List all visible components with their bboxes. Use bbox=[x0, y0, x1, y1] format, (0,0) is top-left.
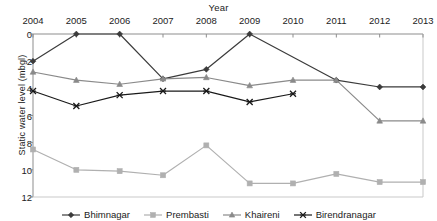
data-point-x-marker bbox=[290, 91, 296, 97]
data-point-x-marker bbox=[300, 212, 306, 218]
legend-label: Birendranagar bbox=[316, 209, 376, 220]
chart-legend: BhimnagarPrembastiKhaireniBirendranagar bbox=[0, 209, 437, 220]
legend-marker-square-icon bbox=[143, 210, 163, 220]
static-water-level-chart: Year Static water level (mbgl) 200420052… bbox=[0, 0, 437, 221]
legend-label: Khaireni bbox=[245, 209, 280, 220]
data-point-x-marker bbox=[73, 103, 79, 109]
series-prembasti bbox=[31, 143, 426, 186]
legend-label: Bhimnagar bbox=[84, 209, 130, 220]
data-point-diamond-marker bbox=[30, 58, 36, 64]
data-point-square-marker bbox=[421, 180, 426, 185]
plot-area bbox=[0, 0, 437, 221]
series-line-prembasti bbox=[33, 145, 423, 183]
series-line-birendranagar bbox=[33, 91, 293, 106]
data-point-diamond-marker bbox=[420, 84, 426, 90]
data-point-square-marker bbox=[377, 180, 382, 185]
data-point-square-marker bbox=[334, 171, 339, 176]
data-point-x-marker bbox=[203, 88, 209, 94]
series-line-bhimnagar bbox=[33, 34, 423, 87]
data-point-x-marker bbox=[247, 99, 253, 105]
data-point-diamond-marker bbox=[68, 212, 74, 218]
data-point-square-marker bbox=[117, 169, 122, 174]
data-point-square-marker bbox=[204, 143, 209, 148]
series-birendranagar bbox=[30, 88, 296, 109]
data-point-square-marker bbox=[247, 181, 252, 186]
data-point-x-marker bbox=[160, 88, 166, 94]
data-point-square-marker bbox=[161, 173, 166, 178]
data-point-square-marker bbox=[31, 147, 36, 152]
data-point-square-marker bbox=[291, 181, 296, 186]
data-point-triangle-marker bbox=[30, 69, 36, 74]
data-point-diamond-marker bbox=[377, 84, 383, 90]
legend-item-birendranagar[interactable]: Birendranagar bbox=[293, 209, 376, 220]
data-point-x-marker bbox=[117, 92, 123, 98]
legend-item-khaireni[interactable]: Khaireni bbox=[222, 209, 280, 220]
data-point-diamond-marker bbox=[73, 31, 79, 37]
legend-label: Prembasti bbox=[166, 209, 209, 220]
legend-marker-triangle-icon bbox=[222, 210, 242, 220]
data-point-square-marker bbox=[74, 167, 79, 172]
legend-item-bhimnagar[interactable]: Bhimnagar bbox=[61, 209, 130, 220]
legend-item-prembasti[interactable]: Prembasti bbox=[143, 209, 209, 220]
legend-marker-x-icon bbox=[293, 210, 313, 220]
legend-marker-diamond-icon bbox=[61, 210, 81, 220]
data-point-square-marker bbox=[151, 212, 156, 217]
